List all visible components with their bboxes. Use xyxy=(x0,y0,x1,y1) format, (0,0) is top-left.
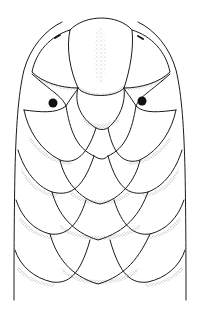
scale-row4-right xyxy=(108,150,182,193)
eye-left xyxy=(49,99,58,108)
scale-row4-left xyxy=(18,150,94,193)
ocular-scale-right xyxy=(136,74,176,112)
ocular-scale-left xyxy=(24,74,66,112)
nostril-right xyxy=(138,36,143,39)
scale-row3-left xyxy=(24,110,96,161)
scale-row3-right xyxy=(108,110,176,161)
eye-right xyxy=(138,97,147,106)
nostril-left xyxy=(55,35,60,38)
reptile-head-illustration xyxy=(0,0,200,318)
scale-row4-center xyxy=(60,160,140,204)
scale-row5-right xyxy=(114,200,184,234)
